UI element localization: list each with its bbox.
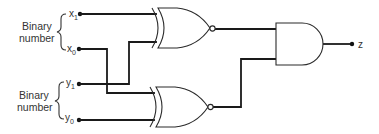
output-z-label: z: [358, 39, 363, 50]
input-x0-label: x0: [67, 43, 76, 56]
and-body: [276, 23, 323, 65]
xnor-gate-bottom: [150, 87, 213, 127]
group-y-label: Binary number: [17, 82, 64, 119]
xnor-top-bubble: [210, 26, 215, 31]
group-x-label-line2: number: [19, 32, 55, 44]
output-z-terminal: [350, 42, 354, 46]
logic-circuit-diagram: Binary number Binary number x1 x0 y1 y0: [0, 0, 379, 134]
group-y-brace: [55, 82, 64, 119]
wire-xnor-bottom-to-and: [213, 59, 276, 107]
xnor-top-body: [158, 8, 210, 48]
group-x-label: Binary number: [19, 14, 66, 50]
input-x1-label: x1: [69, 8, 78, 21]
input-y1-label: y1: [66, 77, 75, 90]
xnor-gate-top: [152, 8, 215, 48]
and-gate: [276, 23, 323, 65]
input-y0-label: y0: [65, 112, 74, 125]
group-y-label-line2: number: [17, 101, 53, 113]
group-x-brace: [57, 14, 66, 50]
xnor-bottom-bubble: [208, 104, 213, 109]
wire-x0-to-xnor-bottom: [79, 49, 154, 93]
xnor-bottom-body: [156, 87, 208, 127]
group-y-label-line1: Binary: [19, 89, 50, 101]
group-x-label-line1: Binary: [22, 20, 53, 32]
